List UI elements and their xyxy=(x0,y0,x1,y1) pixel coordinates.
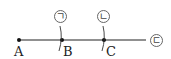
marker-nieun: ㄴ xyxy=(97,10,110,23)
marker-digeut: ㄷ xyxy=(150,34,163,47)
point-a-label: A xyxy=(14,45,23,58)
point-b-label: B xyxy=(63,45,73,58)
arc-b xyxy=(59,26,61,51)
point-c-label: C xyxy=(106,45,116,58)
diagram-canvas xyxy=(0,0,171,59)
point-a-dot xyxy=(17,38,21,42)
marker-giyeok: ㄱ xyxy=(54,10,67,23)
